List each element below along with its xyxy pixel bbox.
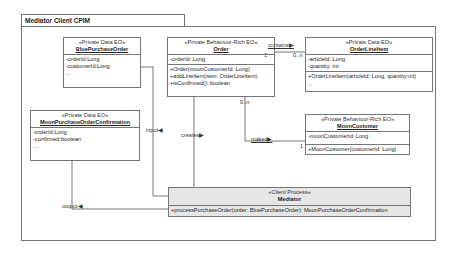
- makes-mult-source: 0..n: [240, 99, 249, 106]
- attribute: ...: [33, 143, 137, 150]
- operation: +addLineItem(item: OrderLineItem): [170, 73, 272, 80]
- operation: +MoonCustomer(customerId: Long): [308, 146, 407, 153]
- class-mediator[interactable]: «Client Process» Mediator +processPurcha…: [168, 187, 411, 217]
- attribute: -quantity: int: [308, 63, 430, 70]
- operations-section: +MoonCustomer(customerId: Long): [306, 145, 409, 154]
- attributes-section: -orderId: Long: [168, 55, 274, 65]
- makes-association: [245, 97, 305, 141]
- contains-mult-target: 0..n: [293, 52, 302, 59]
- operations-section: +processPurchaseOrder(order: BluePurchas…: [169, 206, 410, 215]
- class-blue-purchase-order[interactable]: «Private Data EO» BluePurchaseOrder -ord…: [63, 37, 141, 88]
- class-order[interactable]: «Private Behaviour-Rich EO» Order -order…: [167, 37, 275, 97]
- class-stereotype: «Client Process»: [171, 189, 408, 196]
- makes-label: makes▶: [251, 136, 272, 143]
- operations-section: +Order(moonCustomerId: Long) +addLineIte…: [168, 65, 274, 88]
- attribute: -orderId:Long: [33, 129, 137, 136]
- class-stereotype: «Private Data EO»: [66, 39, 138, 46]
- operation: +Order(moonCustomerId: Long): [170, 66, 272, 73]
- input-label: input◀: [146, 127, 163, 134]
- attributes-section: -orderId:Long -confirmed:boolean ...: [31, 128, 139, 151]
- class-stereotype: «Private Data EO»: [308, 39, 430, 46]
- makes-mult-target: 1: [300, 143, 303, 150]
- attributes-section: -articleId: Long -quantity: int: [306, 55, 432, 72]
- attribute: ...: [66, 70, 138, 77]
- class-name: Order: [170, 46, 272, 53]
- attributes-section: -moonCustomerId: Long: [306, 132, 409, 145]
- contains-label: contains▶: [268, 42, 294, 49]
- class-order-line-item[interactable]: «Private Data EO» OrderLineItem -article…: [305, 37, 433, 92]
- class-stereotype: «Private Behaviour-Rich EO»: [308, 116, 407, 123]
- class-moon-purchase-order-confirmation[interactable]: «Private Data EO» MoonPurchaseOrderConfi…: [30, 110, 140, 161]
- class-moon-customer[interactable]: «Private Behaviour-Rich EO» MoonCustomer…: [305, 114, 410, 155]
- operations-section: +OrderLineItem(articleId: Long, quantity…: [306, 72, 432, 88]
- operation: +OrderLineItem(articleId: Long, quantity…: [308, 73, 430, 80]
- class-name: OrderLineItem: [308, 46, 430, 53]
- creates-label: creates▶: [181, 132, 204, 139]
- contains-mult-source: 1: [264, 52, 267, 59]
- attribute: -articleId: Long: [308, 56, 430, 63]
- class-name: BluePurchaseOrder: [66, 46, 138, 53]
- class-name: MoonCustomer: [308, 123, 407, 130]
- class-stereotype: «Private Data EO»: [33, 112, 137, 119]
- operation: +processPurchaseOrder(order: BluePurchas…: [171, 207, 408, 214]
- attribute: -moonCustomerId: Long: [308, 133, 407, 140]
- class-name: Mediator: [171, 196, 408, 203]
- attributes-section: -orderId:Long -customerId:Long ...: [64, 55, 140, 78]
- output-label: output◀: [62, 203, 83, 210]
- attribute: -customerId:Long: [66, 63, 138, 70]
- operation: ...: [308, 80, 430, 87]
- class-name: MoonPurchaseOrderConfirmation: [33, 119, 137, 126]
- output-association: [72, 160, 168, 209]
- operation: +isConfirmed(): boolean: [170, 80, 272, 87]
- attribute: -orderId: Long: [170, 56, 272, 63]
- attribute: -orderId:Long: [66, 56, 138, 63]
- attribute: -confirmed:boolean: [33, 136, 137, 143]
- class-stereotype: «Private Behaviour-Rich EO»: [170, 39, 272, 46]
